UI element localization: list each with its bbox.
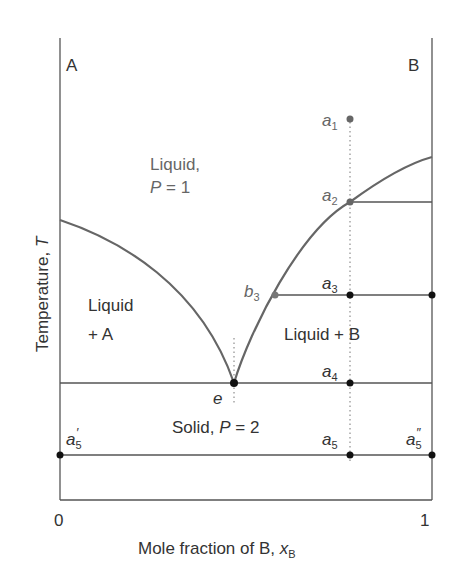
x-tick-1: 1 xyxy=(420,511,429,530)
label-a5: a5 xyxy=(322,430,338,451)
region-liquid-B: Liquid + B xyxy=(284,325,360,344)
point-a3-right xyxy=(429,292,436,299)
label-a1: a1 xyxy=(322,111,338,132)
region-liquid-p: P = 1 xyxy=(150,178,190,197)
label-b3: b3 xyxy=(244,282,260,303)
label-a5-prime: a5′ xyxy=(66,425,82,451)
solid-p-value: = 2 xyxy=(231,418,260,437)
label-a5-dprime: a5″ xyxy=(406,425,422,451)
label-a2: a2 xyxy=(322,186,338,207)
region-liquid-A-1: Liquid xyxy=(88,296,133,315)
y-axis-label: Temperature, T xyxy=(33,235,52,352)
point-a1 xyxy=(347,116,354,123)
liquidus-curve-B xyxy=(234,157,432,383)
point-a5-dprime xyxy=(429,452,436,459)
region-liquid: Liquid, xyxy=(150,155,200,174)
label-A: A xyxy=(66,56,78,75)
label-a4: a4 xyxy=(322,362,338,383)
region-solid: Solid, P = 2 xyxy=(172,418,259,437)
phase-diagram: A B Liquid, P = 1 Liquid + A Liquid + B … xyxy=(0,0,458,587)
point-a5-prime xyxy=(57,452,64,459)
solid-p-symbol: P xyxy=(219,418,231,437)
point-e xyxy=(230,379,238,387)
point-a4 xyxy=(347,380,354,387)
p-symbol: P xyxy=(150,178,162,197)
x-axis-label: Mole fraction of B, xB xyxy=(138,539,296,560)
point-b3 xyxy=(272,292,279,299)
p-value: = 1 xyxy=(161,178,190,197)
region-liquid-A-2: + A xyxy=(88,325,114,344)
point-a3 xyxy=(347,292,354,299)
label-e: e xyxy=(213,389,222,408)
label-a3: a3 xyxy=(322,274,338,295)
point-a2 xyxy=(347,199,354,206)
x-tick-0: 0 xyxy=(54,511,63,530)
point-a5 xyxy=(347,452,354,459)
solid-text: Solid, xyxy=(172,418,219,437)
label-B: B xyxy=(408,56,419,75)
liquidus-curve-A xyxy=(60,220,234,383)
